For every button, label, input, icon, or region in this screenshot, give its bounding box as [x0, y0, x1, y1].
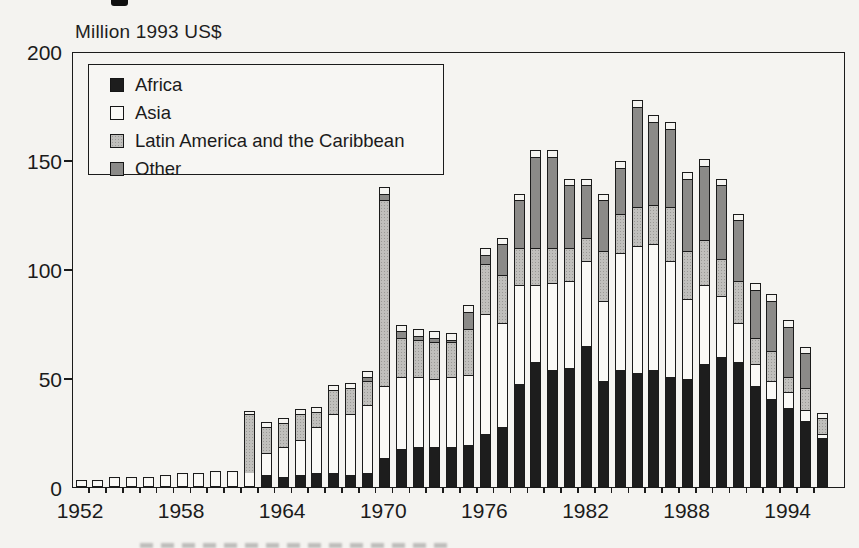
x-axis-tick — [442, 488, 444, 493]
bar-segment-africa — [801, 421, 810, 486]
bar-segment-latin-america — [582, 238, 591, 262]
bar-segment-africa — [329, 473, 338, 486]
bar-segment-asia — [784, 392, 793, 407]
bar-1964 — [278, 418, 289, 487]
bar-segment-asia — [700, 285, 709, 363]
x-axis-tick — [493, 488, 495, 493]
bar-segment-asia — [751, 364, 760, 386]
bar-segment-africa — [414, 447, 423, 486]
y-axis-label-150: 150 — [16, 151, 62, 172]
x-axis-tick — [527, 488, 529, 493]
x-axis-label-1952: 1952 — [45, 499, 115, 523]
bar-segment-latin-america — [447, 342, 456, 377]
bar-segment-africa — [565, 368, 574, 486]
bar-segment-africa — [481, 434, 490, 486]
x-axis-tick — [476, 488, 478, 493]
bar-segment-africa — [633, 373, 642, 486]
bar-1952 — [76, 480, 87, 487]
bar-segment-latin-america — [616, 214, 625, 253]
bar-segment-asia — [262, 453, 271, 475]
bar-segment-other — [498, 244, 507, 275]
bar-segment-asia — [363, 405, 372, 473]
y-axis-label-100: 100 — [16, 260, 62, 281]
bar-segment-africa — [464, 445, 473, 486]
bar-1972 — [413, 329, 424, 487]
bar-segment-africa — [751, 386, 760, 486]
bar-segment-latin-america — [430, 342, 439, 379]
bar-segment-other — [481, 255, 490, 264]
x-axis-tick — [257, 488, 259, 493]
x-axis-label-1958: 1958 — [146, 499, 216, 523]
bar-segment-other — [700, 166, 709, 240]
bar-segment-latin-america — [717, 259, 726, 296]
bar-segment-africa — [734, 362, 743, 486]
y-axis-label-50: 50 — [16, 369, 62, 390]
bar-segment-latin-america — [700, 240, 709, 286]
bar-segment-asia — [430, 379, 439, 447]
x-axis-tick — [425, 488, 427, 493]
legend-box: AfricaAsiaLatin America and the Caribbea… — [88, 64, 444, 175]
bar-segment-asia — [582, 261, 591, 346]
bar-segment-asia — [312, 427, 321, 473]
bar-segment-asia — [296, 440, 305, 475]
bar-1959 — [193, 473, 204, 487]
bar-segment-latin-america — [784, 377, 793, 392]
bar-segment-latin-america — [363, 381, 372, 405]
y-axis-tick — [64, 378, 72, 380]
bar-segment-other — [666, 129, 675, 207]
x-axis-label-1976: 1976 — [449, 499, 519, 523]
bar-segment-latin-america — [464, 329, 473, 375]
bar-segment-africa — [717, 357, 726, 486]
bar-segment-latin-america — [531, 248, 540, 285]
x-axis-tick — [190, 488, 192, 493]
bar-segment-africa — [296, 475, 305, 486]
bar-1963 — [261, 422, 272, 487]
x-axis-tick — [324, 488, 326, 493]
bar-segment-africa — [346, 475, 355, 486]
x-axis-tick — [594, 488, 596, 493]
bar-1996 — [817, 413, 828, 487]
x-axis-tick — [291, 488, 293, 493]
x-axis-tick — [223, 488, 225, 493]
bar-1953 — [92, 480, 103, 487]
bar-segment-asia — [464, 375, 473, 445]
bar-1983 — [598, 194, 609, 487]
plot-area: AfricaAsiaLatin America and the Caribbea… — [72, 52, 845, 488]
bar-1961 — [227, 471, 238, 487]
legend-swatch-latin — [110, 134, 124, 148]
bar-segment-africa — [548, 370, 557, 486]
bar-1954 — [109, 477, 120, 487]
x-axis-label-1988: 1988 — [652, 499, 722, 523]
bar-segment-asia — [531, 285, 540, 361]
bar-segment-other — [717, 185, 726, 259]
bar-segment-asia — [245, 473, 254, 486]
bar-1977 — [497, 238, 508, 487]
bar-segment-latin-america — [599, 251, 608, 301]
bar-segment-latin-america — [329, 390, 338, 414]
x-axis-label-1970: 1970 — [348, 499, 418, 523]
bar-1991 — [733, 214, 744, 487]
bar-segment-latin-america — [262, 427, 271, 453]
bar-segment-latin-america — [481, 264, 490, 314]
x-axis-tick — [139, 488, 141, 493]
bar-segment-latin-america — [801, 388, 810, 410]
bar-segment-other — [599, 200, 608, 250]
legend-row-latin: Latin America and the Caribbean — [110, 127, 443, 154]
x-axis-tick — [375, 488, 377, 493]
bar-segment-other — [649, 122, 658, 205]
bar-segment-other — [565, 185, 574, 248]
x-axis-tick — [274, 488, 276, 493]
bar-1973 — [429, 331, 440, 487]
bar-segment-africa — [380, 458, 389, 486]
bar-segment-africa — [515, 384, 524, 486]
x-axis-tick — [240, 488, 242, 493]
x-axis-tick — [560, 488, 562, 493]
bar-segment-africa — [616, 370, 625, 486]
bar-segment-other — [784, 327, 793, 377]
x-axis-tick — [729, 488, 731, 493]
x-axis-tick — [678, 488, 680, 493]
bar-segment-asia — [515, 285, 524, 383]
bar-segment-africa — [599, 381, 608, 486]
x-axis-tick — [392, 488, 394, 493]
bar-segment-other — [734, 220, 743, 281]
